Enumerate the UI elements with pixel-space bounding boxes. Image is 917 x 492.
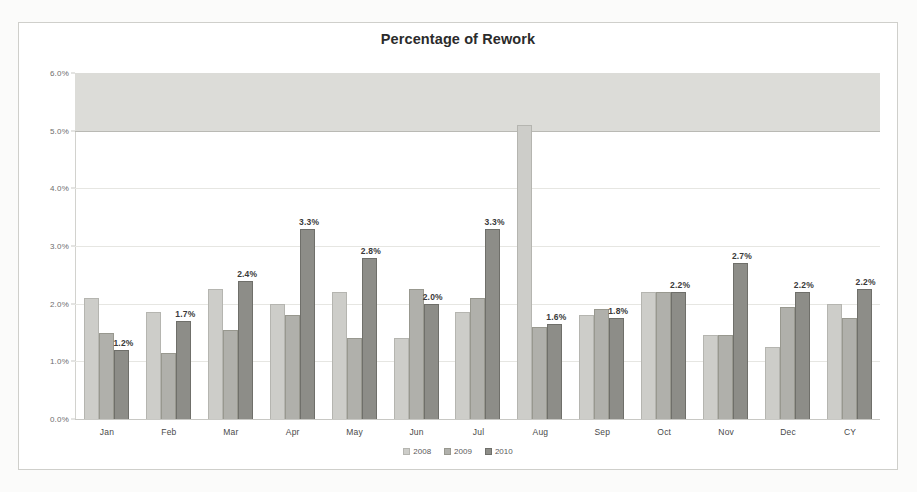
bar-2010-jun: 2.0% bbox=[424, 304, 439, 419]
bar-2010-may: 2.8% bbox=[362, 258, 377, 419]
bar-2008-jul bbox=[455, 312, 470, 419]
x-axis-label-oct: Oct bbox=[633, 427, 695, 437]
x-axis-label-nov: Nov bbox=[695, 427, 757, 437]
bar-data-label: 2.4% bbox=[237, 269, 257, 279]
y-axis-tick-label: 5.0% bbox=[50, 126, 69, 135]
bar-data-label: 2.8% bbox=[361, 246, 381, 256]
y-axis-tick-mark bbox=[71, 303, 75, 304]
bar-2009-may bbox=[347, 338, 362, 419]
bar-group: 1.7% bbox=[138, 73, 200, 419]
bar-2009-feb bbox=[161, 353, 176, 419]
legend-swatch-icon bbox=[403, 448, 410, 455]
screenshot-canvas: Percentage of Rework 0.0%1.0%2.0%3.0%4.0… bbox=[0, 0, 917, 492]
bar-2008-feb bbox=[146, 312, 161, 419]
y-axis-tick-mark bbox=[71, 419, 75, 420]
bar-2010-sep: 1.8% bbox=[609, 318, 624, 419]
bar-group: 1.6% bbox=[509, 73, 571, 419]
bar-group: 3.3% bbox=[447, 73, 509, 419]
x-axis-label-cy: CY bbox=[819, 427, 881, 437]
bar-2010-cy: 2.2% bbox=[857, 289, 872, 419]
y-axis-tick-mark bbox=[71, 246, 75, 247]
bar-2008-aug bbox=[517, 125, 532, 419]
bar-2010-apr: 3.3% bbox=[300, 229, 315, 419]
bar-2010-aug: 1.6% bbox=[547, 324, 562, 419]
y-axis-tick-label: 1.0% bbox=[50, 357, 69, 366]
x-axis-label-may: May bbox=[324, 427, 386, 437]
bar-group: 2.2% bbox=[818, 73, 880, 419]
bar-2008-dec bbox=[765, 347, 780, 419]
bar-2009-cy bbox=[842, 318, 857, 419]
y-axis-tick-label: 3.0% bbox=[50, 242, 69, 251]
gridline bbox=[75, 419, 880, 420]
bar-data-label: 1.8% bbox=[608, 306, 628, 316]
bar-2008-may bbox=[332, 292, 347, 419]
bar-2010-jul: 3.3% bbox=[485, 229, 500, 419]
x-axis-label-mar: Mar bbox=[200, 427, 262, 437]
bar-group: 2.0% bbox=[385, 73, 447, 419]
x-axis-label-apr: Apr bbox=[262, 427, 324, 437]
bar-data-label: 2.2% bbox=[794, 280, 814, 290]
y-axis-tick-label: 0.0% bbox=[50, 415, 69, 424]
bar-group: 2.2% bbox=[633, 73, 695, 419]
bar-2008-jan bbox=[84, 298, 99, 419]
y-axis-tick-mark bbox=[71, 73, 75, 74]
legend-swatch-icon bbox=[444, 448, 451, 455]
bar-2009-aug bbox=[532, 327, 547, 419]
bar-2009-jun bbox=[409, 289, 424, 419]
bar-data-label: 2.7% bbox=[732, 251, 752, 261]
x-axis-label-dec: Dec bbox=[757, 427, 819, 437]
y-axis-tick-label: 4.0% bbox=[50, 184, 69, 193]
legend-label: 2010 bbox=[495, 447, 513, 456]
bar-2009-dec bbox=[780, 307, 795, 419]
bar-group: 2.2% bbox=[756, 73, 818, 419]
legend-label: 2008 bbox=[413, 447, 431, 456]
bar-group: 2.4% bbox=[200, 73, 262, 419]
chart-legend: 200820092010 bbox=[19, 447, 897, 456]
legend-label: 2009 bbox=[454, 447, 472, 456]
legend-item-2008[interactable]: 2008 bbox=[403, 447, 431, 456]
bar-group: 2.7% bbox=[694, 73, 756, 419]
bar-2010-feb: 1.7% bbox=[176, 321, 191, 419]
bar-2009-jul bbox=[470, 298, 485, 419]
bar-2009-sep bbox=[594, 309, 609, 419]
bar-2009-nov bbox=[718, 335, 733, 419]
bar-2009-jan bbox=[99, 333, 114, 420]
bar-2009-oct bbox=[656, 292, 671, 419]
bar-2008-oct bbox=[641, 292, 656, 419]
x-axis-label-feb: Feb bbox=[138, 427, 200, 437]
bar-groups: 1.2%1.7%2.4%3.3%2.8%2.0%3.3%1.6%1.8%2.2%… bbox=[76, 73, 880, 419]
bar-2010-mar: 2.4% bbox=[238, 281, 253, 419]
y-axis-tick-label: 6.0% bbox=[50, 69, 69, 78]
bar-2009-mar bbox=[223, 330, 238, 419]
bar-data-label: 2.2% bbox=[670, 280, 690, 290]
x-axis-label-jun: Jun bbox=[386, 427, 448, 437]
bar-group: 1.8% bbox=[571, 73, 633, 419]
bar-group: 1.2% bbox=[76, 73, 138, 419]
plot-area: 0.0%1.0%2.0%3.0%4.0%5.0%6.0% 1.2%1.7%2.4… bbox=[75, 73, 880, 419]
legend-item-2010[interactable]: 2010 bbox=[485, 447, 513, 456]
bar-2010-dec: 2.2% bbox=[795, 292, 810, 419]
bar-2010-oct: 2.2% bbox=[671, 292, 686, 419]
bar-2010-nov: 2.7% bbox=[733, 263, 748, 419]
legend-item-2009[interactable]: 2009 bbox=[444, 447, 472, 456]
bar-data-label: 1.6% bbox=[546, 312, 566, 322]
bar-2008-sep bbox=[579, 315, 594, 419]
x-axis-label-jan: Jan bbox=[76, 427, 138, 437]
y-axis-tick-mark bbox=[71, 130, 75, 131]
bar-2009-apr bbox=[285, 315, 300, 419]
bar-data-label: 2.2% bbox=[856, 277, 876, 287]
y-axis-tick-mark bbox=[71, 188, 75, 189]
x-axis-label-jul: Jul bbox=[448, 427, 510, 437]
bar-data-label: 2.0% bbox=[423, 292, 443, 302]
bar-group: 2.8% bbox=[323, 73, 385, 419]
bar-data-label: 3.3% bbox=[485, 217, 505, 227]
x-axis-label-sep: Sep bbox=[571, 427, 633, 437]
y-axis-tick-label: 2.0% bbox=[50, 299, 69, 308]
chart-container: Percentage of Rework 0.0%1.0%2.0%3.0%4.0… bbox=[18, 22, 898, 470]
legend-swatch-icon bbox=[485, 448, 492, 455]
bar-2008-apr bbox=[270, 304, 285, 419]
bar-group: 3.3% bbox=[262, 73, 324, 419]
y-axis-tick-mark bbox=[71, 361, 75, 362]
bar-data-label: 1.7% bbox=[175, 309, 195, 319]
bar-2010-jan: 1.2% bbox=[114, 350, 129, 419]
